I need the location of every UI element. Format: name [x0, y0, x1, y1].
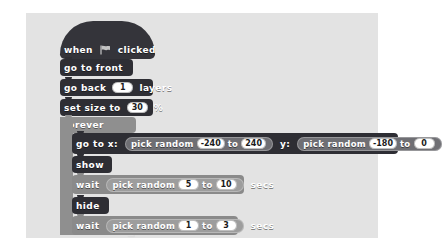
wait-short-secs-label: secs — [247, 221, 279, 231]
wait-short-label: wait — [72, 221, 103, 231]
hat-block-row: when clicked — [60, 40, 155, 59]
go-to-y-label: y: — [276, 139, 294, 149]
block-forever-arm — [60, 117, 73, 235]
when-label: when — [60, 45, 97, 55]
set-size-input[interactable]: 30 — [127, 102, 148, 113]
go-back-label: go back — [60, 83, 110, 93]
block-go-to-xy[interactable]: go to x: pick random -240 to 240 y: pick… — [72, 133, 398, 154]
pick-random-x-to[interactable]: 240 — [241, 138, 266, 149]
pick-random-y-to-label: to — [399, 139, 412, 149]
go-back-layers-input[interactable]: 1 — [112, 82, 133, 93]
pick-random-wait-short-to-label: to — [201, 221, 214, 231]
block-when-flag-clicked[interactable]: when clicked — [60, 21, 155, 59]
block-wait-short[interactable]: wait pick random 1 to 3 secs — [72, 216, 238, 235]
reporter-pick-random-x[interactable]: pick random -240 to 240 — [125, 137, 273, 151]
pick-random-wait-long-to[interactable]: 10 — [216, 179, 237, 190]
pick-random-x-from[interactable]: -240 — [197, 138, 225, 149]
show-label: show — [72, 160, 108, 170]
wait-long-secs-label: secs — [247, 180, 279, 190]
pick-random-wait-short-from[interactable]: 1 — [178, 220, 199, 231]
reporter-pick-random-y[interactable]: pick random -180 to 0 — [297, 137, 441, 151]
go-to-x-label: go to x: — [72, 139, 122, 149]
pick-random-y-from[interactable]: -180 — [369, 138, 397, 149]
reporter-pick-random-wait-short[interactable]: pick random 1 to 3 — [106, 219, 243, 233]
clicked-label: clicked — [114, 45, 160, 55]
layers-label: layers — [135, 83, 176, 93]
pick-random-y-to[interactable]: 0 — [414, 138, 435, 149]
pick-random-x-to-label: to — [227, 139, 240, 149]
block-go-back-layers[interactable]: go back 1 layers — [60, 79, 153, 96]
pick-random-wait-long-from[interactable]: 5 — [178, 179, 199, 190]
block-go-to-front[interactable]: go to front — [60, 59, 133, 76]
hide-label: hide — [72, 201, 104, 211]
block-hide[interactable]: hide — [72, 197, 109, 214]
wait-long-label: wait — [72, 180, 103, 190]
pick-random-wait-short-label: pick random — [111, 221, 176, 231]
pick-random-wait-long-to-label: to — [201, 180, 214, 190]
percent-label: % — [150, 103, 167, 113]
scratch-code-canvas[interactable]: when clicked go to front go back 1 layer… — [26, 13, 378, 238]
block-set-size-to[interactable]: set size to 30 % — [60, 99, 153, 116]
pick-random-wait-long-label: pick random — [111, 180, 176, 190]
block-show[interactable]: show — [72, 156, 112, 173]
set-size-to-label: set size to — [60, 103, 125, 113]
pick-random-y-label: pick random — [302, 139, 367, 149]
block-wait-long[interactable]: wait pick random 5 to 10 secs — [72, 175, 244, 194]
pick-random-wait-short-to[interactable]: 3 — [216, 220, 237, 231]
pick-random-x-label: pick random — [130, 139, 195, 149]
green-flag-icon — [100, 45, 111, 55]
go-to-front-label: go to front — [60, 63, 127, 73]
reporter-pick-random-wait-long[interactable]: pick random 5 to 10 — [106, 178, 243, 192]
